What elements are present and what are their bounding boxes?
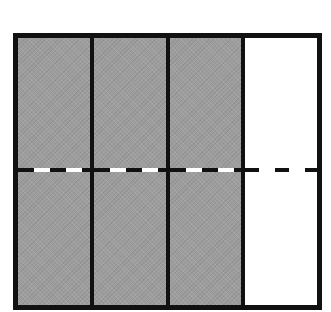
column-2-shaded xyxy=(94,38,170,305)
column-3-shaded xyxy=(170,38,246,305)
dashed-horizontal-divider xyxy=(245,168,317,172)
column-1-shaded xyxy=(18,38,94,305)
dashed-horizontal-divider xyxy=(18,168,90,172)
fraction-rectangle xyxy=(13,33,322,310)
dashed-horizontal-divider xyxy=(170,168,242,172)
dashed-horizontal-divider xyxy=(94,168,166,172)
column-4-unshaded xyxy=(245,38,317,305)
